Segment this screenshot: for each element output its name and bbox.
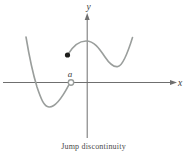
y-axis-arrow-icon (85, 13, 90, 20)
y-axis-label: y (85, 2, 91, 12)
function-graph: y x a (0, 0, 187, 151)
filled-dot (65, 52, 70, 57)
figure-caption: Jump discontinuity (0, 142, 187, 151)
point-a-label: a (68, 69, 73, 79)
curve-right-branch (68, 38, 133, 67)
jump-discontinuity-figure: y x a Jump discontinuity (0, 0, 187, 151)
open-circle-at-a (68, 80, 73, 85)
curve-left-branch (26, 37, 69, 107)
x-axis-arrow-icon (170, 80, 177, 85)
x-axis-label: x (177, 78, 183, 88)
